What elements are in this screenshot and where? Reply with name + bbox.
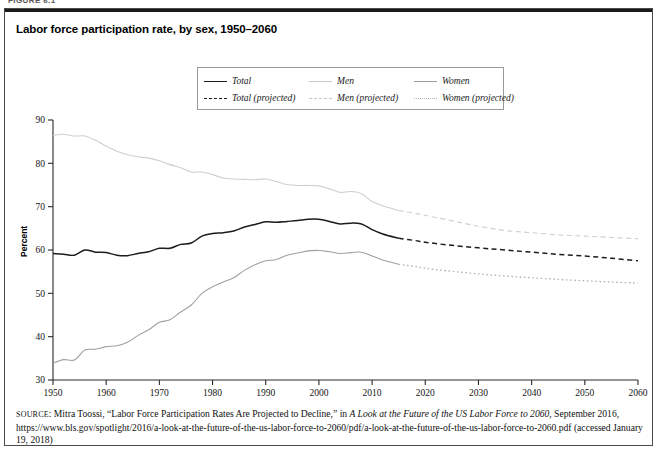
series-line-men bbox=[53, 134, 399, 210]
x-axis-tick-label: 1970 bbox=[150, 388, 169, 398]
x-axis-tick-label: 1960 bbox=[97, 388, 116, 398]
source-italic-title: A Look at the Future of the US Labor For… bbox=[350, 408, 550, 419]
y-axis-tick-label: 50 bbox=[36, 289, 46, 299]
x-axis-tick-label: 2040 bbox=[522, 388, 541, 398]
x-axis-tick-label: 2050 bbox=[575, 388, 594, 398]
x-axis-tick-label: 2060 bbox=[629, 388, 648, 398]
x-axis-tick-label: 2010 bbox=[363, 388, 382, 398]
y-axis-tick-label: 90 bbox=[36, 115, 46, 125]
chart-plot-area: 9080706050403019501960197019801990200020… bbox=[5, 9, 654, 447]
y-axis-tick-label: 30 bbox=[36, 375, 46, 385]
figure-label: FIGURE 6.1 bbox=[8, 0, 56, 5]
y-axis-tick-label: 80 bbox=[36, 159, 46, 169]
series-line-men-projected bbox=[399, 211, 638, 239]
y-axis-tick-label: 40 bbox=[36, 332, 46, 342]
axis-layer: 9080706050403019501960197019801990200020… bbox=[36, 115, 648, 397]
x-axis-tick-label: 2030 bbox=[469, 388, 488, 398]
series-layer bbox=[53, 134, 638, 363]
x-axis-tick-label: 1990 bbox=[256, 388, 275, 398]
source-prefix: SOURCE bbox=[16, 410, 49, 419]
source-text-1: : Mitra Toossi, “Labor Force Participati… bbox=[49, 408, 350, 419]
x-axis-tick-label: 2020 bbox=[416, 388, 435, 398]
x-axis-tick-label: 1980 bbox=[203, 388, 222, 398]
line-chart-svg: 9080706050403019501960197019801990200020… bbox=[5, 9, 654, 447]
series-line-total bbox=[53, 219, 399, 256]
series-line-total-projected bbox=[399, 238, 638, 261]
series-line-women bbox=[53, 250, 399, 363]
figure-container: Labor force participation rate, by sex, … bbox=[4, 8, 653, 446]
y-axis-title: Percent bbox=[19, 226, 29, 257]
y-axis-tick-label: 70 bbox=[36, 202, 46, 212]
x-axis-tick-label: 2000 bbox=[309, 388, 328, 398]
y-axis-tick-label: 60 bbox=[36, 245, 46, 255]
x-axis-tick-label: 1950 bbox=[44, 388, 63, 398]
source-note: SOURCE: Mitra Toossi, “Labor Force Parti… bbox=[16, 408, 648, 447]
series-line-women-projected bbox=[399, 264, 638, 283]
